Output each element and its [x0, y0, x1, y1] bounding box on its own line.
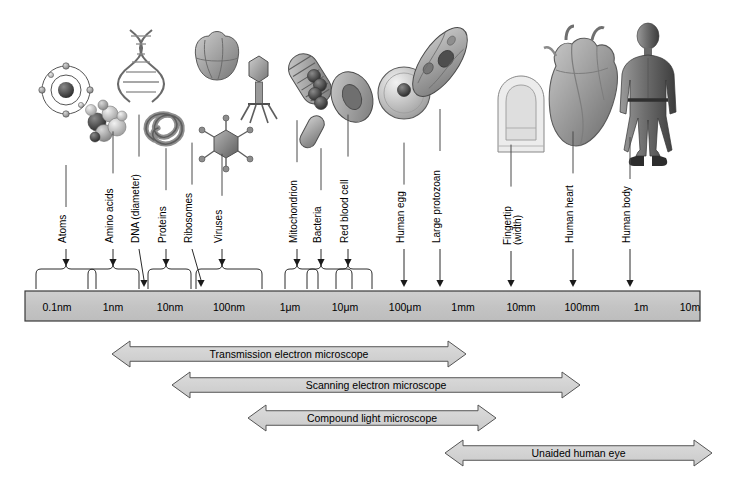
scale-tick-label: 10m — [680, 301, 701, 313]
red-blood-cell-icon — [324, 65, 381, 128]
amino-acid-molecule-icon — [86, 100, 128, 142]
pointer-arrowhead — [400, 280, 407, 287]
specimen-label: DNA (diameter) — [130, 174, 141, 243]
pointer-arrowhead — [626, 280, 633, 287]
pointer-arrowhead — [507, 280, 514, 287]
human-body-icon — [620, 23, 676, 166]
scale-tick-label: 0.1nm — [42, 301, 71, 313]
specimen-label: Proteins — [157, 206, 168, 243]
specimen-label-secondary: (width) — [512, 215, 523, 245]
icosahedral-virus-icon — [199, 115, 253, 172]
range-label: Scanning electron microscope — [306, 379, 447, 391]
specimen-label: Ribosomes — [183, 193, 194, 243]
specimen-labels: AtomsAmino acidsDNA (diameter)ProteinsRi… — [57, 170, 632, 245]
range-label: Unaided human eye — [532, 447, 626, 459]
diagram-canvas: AtomsAmino acidsDNA (diameter)ProteinsRi… — [0, 0, 752, 486]
range-label: Transmission electron microscope — [210, 348, 369, 360]
specimen-pointers — [36, 249, 634, 289]
atom-icon — [39, 63, 93, 117]
protein-ribbon-icon — [146, 114, 182, 144]
specimen-brace — [336, 264, 372, 289]
specimen-brace — [285, 264, 318, 289]
scale-tick-label: 100μm — [389, 301, 422, 313]
specimen-label: Mitochondrion — [288, 180, 299, 243]
specimen-label: Bacteria — [312, 206, 323, 243]
range-label: Compound light microscope — [307, 412, 437, 424]
scale-tick-label: 10mm — [506, 301, 535, 313]
instrument-range-arrows: Transmission electron microscopeScanning… — [112, 341, 712, 466]
specimen-brace — [307, 264, 352, 289]
bacillus-rod-icon — [297, 113, 327, 151]
scale-tick-label: 10μm — [332, 301, 359, 313]
specimen-label: Human egg — [395, 191, 406, 243]
specimen-label: Atoms — [57, 215, 68, 243]
ribosome-icon — [195, 32, 238, 81]
specimen-label: Human heart — [564, 185, 575, 243]
pointer-arrowhead — [436, 280, 443, 287]
specimen-label: Amino acids — [104, 189, 115, 243]
heart-icon — [544, 26, 617, 146]
specimen-brace — [196, 264, 262, 289]
specimen-label: Red blood cell — [339, 180, 350, 243]
scale-tick-label: 1mm — [451, 301, 475, 313]
scale-tick-label: 100nm — [213, 301, 245, 313]
scale-bar: 0.1nm1nm10nm100nm1μm10μm100μm1mm10mm100m… — [25, 291, 700, 321]
pointer-arrowhead — [197, 280, 204, 287]
bacteriophage-icon — [241, 56, 277, 123]
scale-tick-label: 1m — [634, 301, 649, 313]
specimen-label: Viruses — [213, 210, 224, 243]
fingertip-icon — [498, 76, 544, 152]
specimen-label: Large protozoan — [431, 170, 442, 243]
specimen-brace — [36, 264, 96, 289]
scale-tick-label: 1nm — [103, 301, 124, 313]
specimen-label: Human body — [621, 186, 632, 243]
dna-helix-icon — [118, 30, 164, 102]
pointer-arrowhead — [569, 280, 576, 287]
scale-tick-label: 1μm — [280, 301, 301, 313]
specimen-illustrations — [39, 19, 676, 172]
pointer-line — [139, 249, 144, 280]
size-scale-diagram: AtomsAmino acidsDNA (diameter)ProteinsRi… — [0, 0, 752, 486]
scale-tick-label: 100mm — [564, 301, 599, 313]
scale-tick-label: 10nm — [157, 301, 184, 313]
specimen-brace — [148, 264, 191, 289]
pointer-arrowhead — [140, 280, 147, 287]
